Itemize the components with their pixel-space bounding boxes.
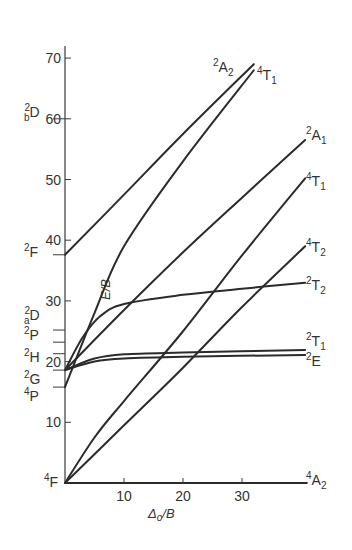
axes: 10203040506070102030	[45, 46, 306, 504]
y-tick-label: 10	[45, 414, 61, 430]
x-axis-label: Δo/B	[147, 506, 175, 523]
term-label-2bd: 2bD	[24, 102, 40, 123]
y-tick-label: 20	[45, 354, 61, 370]
term-label-2a2: 2A2	[213, 57, 234, 78]
term-label-4t1: 4T1	[306, 171, 326, 192]
x-tick-label: 10	[116, 488, 132, 504]
term-label-4t1: 4T1	[257, 65, 277, 86]
term-label-4p: 4P	[24, 386, 39, 404]
term-label-2g: 2G	[24, 369, 40, 387]
curve-4t1-p-	[65, 70, 254, 387]
energy-curves	[65, 64, 307, 483]
term-label-2t2: 2T2	[306, 275, 326, 296]
term-label-2ad: 2aD	[24, 305, 40, 326]
term-label-4f: 4F	[44, 472, 58, 490]
tanabe-sugano-diagram: 10203040506070102030 4F4P2G2H2P2aD2F2bD …	[0, 0, 352, 550]
y-tick-label: 30	[45, 293, 61, 309]
curve-2a1	[65, 140, 305, 370]
ligand-field-term-labels: 2A24T12A14T14T22T22T12E4A2	[213, 57, 327, 491]
y-tick-label: 50	[45, 172, 61, 188]
y-axis-label: E/B	[98, 279, 113, 300]
term-label-2t1: 2T1	[306, 331, 326, 352]
curve-4t1-f-	[65, 178, 305, 483]
x-tick-label: 30	[234, 488, 250, 504]
term-label-2f: 2F	[24, 242, 38, 260]
term-label-2p: 2P	[24, 325, 39, 343]
x-tick-label: 20	[175, 488, 191, 504]
curve-2a2	[65, 64, 254, 255]
term-label-2e: 2E	[306, 351, 321, 369]
y-tick-label: 70	[45, 50, 61, 66]
term-label-4t2: 4T2	[306, 237, 326, 258]
term-label-2a1: 2A1	[306, 125, 327, 146]
term-label-2h: 2H	[24, 347, 40, 365]
term-label-4a2: 4A2	[306, 470, 327, 491]
y-tick-label: 40	[45, 232, 61, 248]
